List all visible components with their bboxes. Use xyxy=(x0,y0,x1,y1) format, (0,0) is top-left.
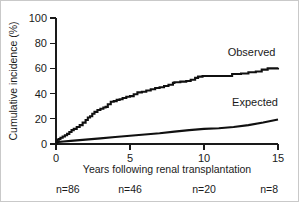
cumulative-incidence-chart: 020406080100 Cumulative incidence (%) 05… xyxy=(1,1,299,202)
y-axis: 020406080100 Cumulative incidence (%) xyxy=(7,12,56,150)
y-tick-label: 100 xyxy=(29,12,47,24)
n-at-risk-label: n=8 xyxy=(260,183,278,195)
y-tick-marks xyxy=(50,18,56,144)
n-at-risk-label: n=20 xyxy=(192,183,216,195)
series-label-observed: Observed xyxy=(228,46,276,58)
y-tick-label: 80 xyxy=(35,37,47,49)
series-label-expected: Expected xyxy=(232,96,278,108)
x-tick-label: 15 xyxy=(272,152,284,164)
y-tick-label: 60 xyxy=(35,62,47,74)
series-line-expected xyxy=(56,119,278,142)
n-at-risk-label: n=46 xyxy=(118,183,142,195)
figure-container: 020406080100 Cumulative incidence (%) 05… xyxy=(0,0,299,202)
y-tick-label: 40 xyxy=(35,88,47,100)
y-tick-label: 20 xyxy=(35,113,47,125)
y-tick-labels: 020406080100 xyxy=(29,12,47,150)
x-tick-marks xyxy=(56,144,278,150)
x-tick-label: 0 xyxy=(53,152,59,164)
x-axis: 051015 Years following renal transplanta… xyxy=(53,144,284,175)
x-axis-title: Years following renal transplantation xyxy=(83,163,251,175)
y-tick-label: 0 xyxy=(41,138,47,150)
series-annotations: ObservedExpected xyxy=(228,46,278,108)
n-at-risk-label: n=86 xyxy=(56,183,80,195)
y-axis-title: Cumulative incidence (%) xyxy=(7,21,19,140)
n-at-risk-row: n=86n=46n=20n=8 xyxy=(56,183,278,195)
